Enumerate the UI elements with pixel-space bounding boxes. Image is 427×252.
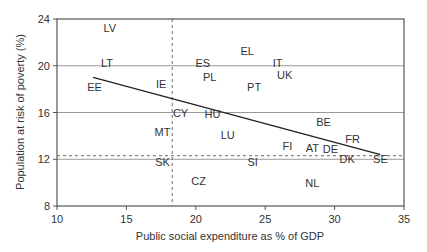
y-tick-label: 8 (44, 200, 50, 212)
country-label-se: SE (373, 153, 388, 165)
country-label-hu: HU (205, 108, 221, 120)
country-label-pl: PL (203, 71, 216, 83)
country-label-lu: LU (221, 129, 235, 141)
scatter-chart: 101520253035812162024 LVLTEEIEESPLELITUK… (0, 0, 427, 252)
country-label-it: IT (273, 57, 283, 69)
x-tick-label: 30 (328, 213, 340, 225)
axes: 101520253035812162024 (38, 13, 410, 225)
country-label-es: ES (195, 57, 210, 69)
country-label-nl: NL (305, 177, 319, 189)
x-tick-label: 20 (190, 213, 202, 225)
x-tick-label: 35 (398, 213, 410, 225)
y-tick-label: 12 (38, 153, 50, 165)
country-label-sk: SK (155, 156, 170, 168)
country-label-uk: UK (277, 69, 293, 81)
country-label-si: SI (248, 156, 258, 168)
x-tick-label: 25 (259, 213, 271, 225)
country-label-cy: CY (173, 107, 189, 119)
country-label-el: EL (240, 45, 253, 57)
country-label-ie: IE (156, 78, 166, 90)
country-label-ee: EE (87, 81, 102, 93)
y-tick-label: 16 (38, 107, 50, 119)
y-tick-label: 24 (38, 13, 50, 25)
x-axis-label: Public social expenditure as % of GDP (136, 230, 324, 242)
country-label-de: DE (323, 143, 338, 155)
y-axis-label: Population at risk of poverty (%) (14, 34, 26, 190)
y-tick-label: 20 (38, 60, 50, 72)
country-label-fi: FI (283, 140, 293, 152)
data-labels: LVLTEEIEESPLELITUKPTCYHUMTLUBEFRFIATDEDK… (87, 22, 388, 188)
x-tick-label: 15 (120, 213, 132, 225)
country-label-fr: FR (345, 133, 360, 145)
country-label-mt: MT (155, 126, 171, 138)
country-label-lv: LV (103, 22, 116, 34)
x-tick-label: 10 (51, 213, 63, 225)
country-label-at: AT (306, 142, 320, 154)
country-label-pt: PT (247, 81, 261, 93)
country-label-cz: CZ (191, 175, 206, 187)
country-label-dk: DK (339, 153, 355, 165)
country-label-be: BE (316, 116, 331, 128)
country-label-lt: LT (101, 57, 113, 69)
